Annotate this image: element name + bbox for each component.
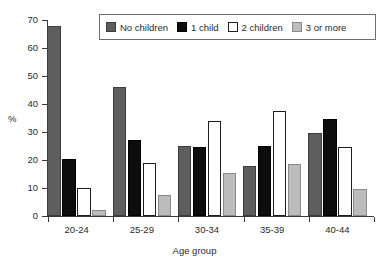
bar xyxy=(113,87,127,216)
x-axis-category-label: 20-24 xyxy=(47,224,107,235)
x-axis-category-label: 40-44 xyxy=(307,224,367,235)
bar-group xyxy=(47,20,106,216)
y-axis-tick xyxy=(42,20,47,21)
bar xyxy=(143,163,157,216)
bar-group xyxy=(113,20,172,216)
y-axis-tick xyxy=(42,48,47,49)
bar xyxy=(128,140,142,216)
x-axis-title: Age group xyxy=(0,245,389,256)
y-axis-tick-label: 60 xyxy=(14,43,38,53)
legend-item[interactable]: No children xyxy=(106,22,168,33)
legend-label: No children xyxy=(120,22,168,33)
bar xyxy=(273,111,287,216)
legend-item[interactable]: 3 or more xyxy=(292,22,347,33)
y-axis-tick xyxy=(42,160,47,161)
bar xyxy=(258,146,272,216)
legend-swatch-icon xyxy=(106,22,116,32)
y-axis-tick-label: 50 xyxy=(14,71,38,81)
bar xyxy=(62,159,76,216)
y-axis-tick-label: 10 xyxy=(14,183,38,193)
bar xyxy=(47,26,61,216)
x-axis-separator-tick xyxy=(113,217,114,222)
y-axis-tick xyxy=(42,188,47,189)
x-axis-category-label: 30-34 xyxy=(177,224,237,235)
legend-swatch-icon xyxy=(177,22,187,32)
bar xyxy=(338,147,352,216)
legend-label: 2 children xyxy=(242,22,283,33)
bar xyxy=(243,166,257,216)
bar xyxy=(323,119,337,216)
y-axis-tick-label: 30 xyxy=(14,127,38,137)
bar xyxy=(193,147,207,216)
bar-chart: % 010203040506070 20-2425-2930-3435-3940… xyxy=(0,0,389,274)
bar xyxy=(92,210,106,216)
y-axis-tick xyxy=(42,76,47,77)
legend-label: 1 child xyxy=(191,22,218,33)
x-axis-category-label: 35-39 xyxy=(242,224,302,235)
x-axis-separator-tick xyxy=(178,217,179,222)
legend: No children1 child2 children3 or more xyxy=(99,14,376,40)
legend-item[interactable]: 1 child xyxy=(177,22,218,33)
x-axis-line xyxy=(47,216,374,217)
legend-swatch-icon xyxy=(228,22,238,32)
bar xyxy=(353,189,367,216)
bar xyxy=(308,133,322,216)
bar xyxy=(223,173,237,216)
x-axis-separator-tick xyxy=(309,217,310,222)
bar xyxy=(178,146,192,216)
bar-group xyxy=(243,20,302,216)
x-axis-separator-tick xyxy=(374,217,375,222)
y-axis-tick xyxy=(42,104,47,105)
y-axis-tick-label: 0 xyxy=(14,211,38,221)
y-axis-tick-label: 70 xyxy=(14,15,38,25)
plot-area xyxy=(48,20,374,216)
legend-swatch-icon xyxy=(292,22,302,32)
bar xyxy=(288,164,302,216)
bar xyxy=(77,188,91,216)
legend-item[interactable]: 2 children xyxy=(228,22,283,33)
bar xyxy=(208,121,222,216)
bar-group xyxy=(308,20,367,216)
bar xyxy=(158,195,172,216)
y-axis-title: % xyxy=(8,113,16,124)
x-axis-separator-tick xyxy=(244,217,245,222)
x-axis-separator-tick xyxy=(48,217,49,222)
legend-label: 3 or more xyxy=(306,22,347,33)
y-axis-tick-label: 20 xyxy=(14,155,38,165)
y-axis-tick-label: 40 xyxy=(14,99,38,109)
y-axis-tick xyxy=(42,132,47,133)
x-axis-category-label: 25-29 xyxy=(112,224,172,235)
bar-group xyxy=(178,20,237,216)
